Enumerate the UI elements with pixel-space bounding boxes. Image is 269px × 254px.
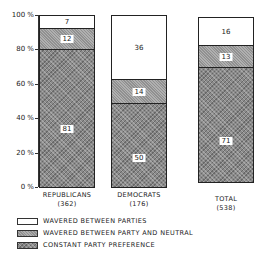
y-tick-40: 40 % (0, 114, 34, 122)
y-tick-mark (35, 187, 38, 188)
bar-democrats: 36 14 50 (111, 15, 167, 188)
bar-total: 16 13 71 (198, 17, 254, 183)
bar-republicans: 7 12 81 (39, 15, 95, 188)
value-label: 50 (133, 154, 146, 162)
legend-item-constant-preference: CONSTANT PARTY PREFERENCE (17, 240, 155, 250)
segment-wavered-neutral: 12 (40, 28, 94, 49)
category-count: (538) (191, 204, 261, 213)
category-democrats: DEMOCRATS (176) (104, 191, 174, 209)
y-tick-mark (35, 153, 38, 154)
value-label: 81 (61, 125, 74, 133)
value-label: 71 (220, 137, 233, 145)
legend-swatch-white (17, 218, 38, 225)
segment-wavered-parties: 16 (199, 18, 253, 45)
y-tick-80: 80 % (0, 45, 34, 53)
category-name: REPUBLICANS (32, 191, 102, 200)
segment-constant-preference: 81 (40, 49, 94, 187)
y-tick-20: 20 % (0, 149, 34, 157)
value-label: 14 (133, 88, 146, 96)
legend-swatch-dark-hatch (17, 242, 38, 249)
legend-item-wavered-parties: WAVERED BETWEEN PARTIES (17, 216, 147, 226)
segment-wavered-parties: 7 (40, 16, 94, 28)
value-label: 36 (133, 44, 146, 52)
y-tick-60: 60 % (0, 80, 34, 88)
category-republicans: REPUBLICANS (362) (32, 191, 102, 209)
value-label: 13 (220, 53, 233, 61)
segment-constant-preference: 50 (112, 103, 166, 187)
segment-wavered-parties: 36 (112, 16, 166, 79)
category-count: (176) (104, 200, 174, 209)
segment-wavered-neutral: 13 (199, 45, 253, 67)
y-tick-100: 100 % (0, 11, 34, 19)
y-tick-mark (35, 49, 38, 50)
value-label: 16 (220, 28, 233, 36)
y-tick-mark (35, 84, 38, 85)
legend-swatch-light-hatch (17, 230, 38, 237)
legend-item-wavered-neutral: WAVERED BETWEEN PARTY AND NEUTRAL (17, 228, 193, 238)
value-label: 7 (63, 18, 71, 26)
legend-label: CONSTANT PARTY PREFERENCE (43, 241, 155, 249)
legend-label: WAVERED BETWEEN PARTIES (43, 217, 147, 225)
y-tick-mark (35, 15, 38, 16)
category-name: DEMOCRATS (104, 191, 174, 200)
value-label: 12 (61, 35, 74, 43)
y-tick-mark (35, 118, 38, 119)
y-tick-0: 0 % (0, 183, 34, 191)
segment-wavered-neutral: 14 (112, 79, 166, 103)
category-count: (362) (32, 200, 102, 209)
segment-constant-preference: 71 (199, 67, 253, 182)
category-total: TOTAL (538) (191, 195, 261, 213)
category-name: TOTAL (191, 195, 261, 204)
legend-label: WAVERED BETWEEN PARTY AND NEUTRAL (43, 229, 193, 237)
